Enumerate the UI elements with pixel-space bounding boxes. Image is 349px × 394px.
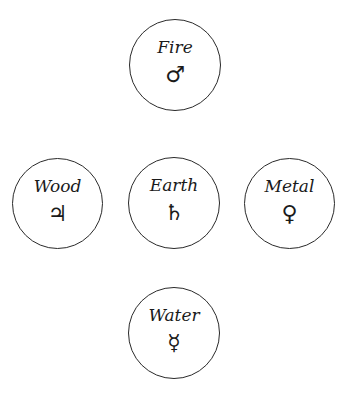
node-metal: Metal ♀ — [244, 158, 335, 249]
node-water: Water ☿ — [128, 287, 220, 379]
saturn-icon: ♄ — [164, 201, 184, 225]
node-label: Fire — [157, 37, 192, 57]
jupiter-icon: ♃ — [48, 202, 68, 226]
node-fire: Fire ♂ — [129, 19, 221, 111]
node-label: Water — [148, 305, 199, 325]
mars-icon: ♂ — [165, 63, 185, 87]
mercury-icon: ☿ — [167, 331, 181, 355]
node-label: Metal — [265, 176, 315, 196]
node-wood: Wood ♃ — [12, 158, 103, 249]
node-label: Wood — [34, 176, 82, 196]
node-earth: Earth ♄ — [128, 157, 220, 249]
node-label: Earth — [150, 175, 198, 195]
venus-icon: ♀ — [281, 202, 297, 226]
